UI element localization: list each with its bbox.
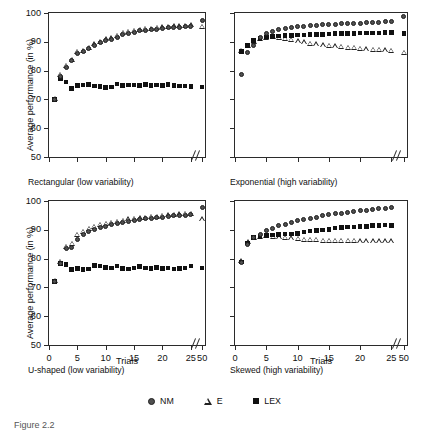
data-point-e <box>401 50 407 55</box>
data-point-nm <box>58 74 63 79</box>
data-point-nm <box>177 25 182 30</box>
data-point-nm <box>188 24 193 29</box>
panel-exponential: Exponential (high variability) <box>222 8 412 193</box>
data-point-nm <box>326 212 331 217</box>
data-point-nm <box>86 46 91 51</box>
y-axis-tick-label: 60 <box>31 310 41 323</box>
data-point-e <box>357 238 363 243</box>
data-point-e <box>345 238 351 243</box>
data-point-lex <box>189 264 194 269</box>
y-axis-tick: 80 <box>44 259 49 260</box>
data-point-lex <box>64 262 69 267</box>
data-point-e <box>388 48 394 53</box>
data-point-nm <box>314 215 319 220</box>
data-point-nm <box>326 22 331 27</box>
data-point-lex <box>333 31 338 36</box>
data-point-lex <box>137 83 142 88</box>
data-point-lex <box>154 83 159 88</box>
data-point-lex <box>109 85 114 90</box>
data-point-nm <box>389 205 394 210</box>
filled-square-icon <box>253 398 260 405</box>
data-point-e <box>338 44 344 49</box>
data-point-e <box>301 39 307 44</box>
x-axis-tick: 5 <box>266 345 267 350</box>
data-point-lex <box>264 233 269 238</box>
data-point-e <box>326 43 332 48</box>
figure-root: Average performance (in %) 5060708090100… <box>0 0 429 432</box>
data-point-lex <box>75 266 80 271</box>
data-point-e <box>199 216 205 221</box>
data-point-lex <box>308 32 313 37</box>
x-axis-tick: 20 <box>162 345 163 350</box>
data-point-nm <box>339 211 344 216</box>
data-point-nm <box>115 35 120 40</box>
data-point-lex <box>132 266 137 271</box>
data-point-nm <box>258 35 263 40</box>
y-axis-tick-label: 90 <box>31 35 41 48</box>
data-point-lex <box>402 31 407 36</box>
data-point-lex <box>352 225 357 230</box>
panel-skewed: 051015202550 Skewed (high variability) T… <box>222 196 412 381</box>
data-point-lex <box>69 86 74 91</box>
data-point-nm <box>320 213 325 218</box>
data-point-e <box>332 43 338 48</box>
data-point-lex <box>109 266 114 271</box>
open-triangle-icon <box>204 398 212 405</box>
x-axis-tick <box>134 157 135 162</box>
data-point-nm <box>289 25 294 30</box>
data-point-lex <box>283 33 288 38</box>
data-point-lex <box>143 266 148 271</box>
data-point-nm <box>308 216 313 221</box>
data-point-nm <box>75 237 80 242</box>
y-axis-tick <box>230 201 235 202</box>
data-point-nm <box>154 27 159 32</box>
y-axis-tick-label: 50 <box>31 339 41 352</box>
x-axis-tick <box>329 157 330 162</box>
data-point-lex <box>103 85 108 90</box>
data-point-e <box>351 238 357 243</box>
x-axis-tick <box>266 157 267 162</box>
data-point-e <box>326 238 332 243</box>
data-point-nm <box>383 206 388 211</box>
x-axis-break-icon <box>394 150 403 161</box>
data-point-nm <box>364 208 369 213</box>
data-point-nm <box>239 260 244 265</box>
data-point-lex <box>295 33 300 38</box>
data-point-nm <box>283 222 288 227</box>
data-point-lex <box>81 83 86 88</box>
data-point-e <box>295 38 301 43</box>
x-axis-tick <box>298 157 299 162</box>
data-point-lex <box>177 266 182 271</box>
data-point-nm <box>149 27 154 32</box>
data-point-lex <box>177 84 182 89</box>
data-point-nm <box>143 28 148 33</box>
y-axis-tick: 100 <box>44 201 49 202</box>
data-point-e <box>313 237 319 242</box>
data-point-e <box>288 235 294 240</box>
plot-area: 5060708090100051015202550 <box>48 200 206 346</box>
x-axis-tick <box>106 157 107 162</box>
x-axis-title: Trials <box>48 356 206 366</box>
data-point-nm <box>183 213 188 218</box>
y-axis-tick-label: 80 <box>31 64 41 77</box>
panel-rectangular: Average performance (in %) 5060708090100… <box>20 8 210 193</box>
data-point-e <box>307 237 313 242</box>
data-point-lex <box>295 231 300 236</box>
data-point-lex <box>143 82 148 87</box>
data-point-lex <box>289 232 294 237</box>
plot-area <box>234 12 408 158</box>
x-axis-tick: 10 <box>106 345 107 350</box>
data-point-lex <box>320 32 325 37</box>
panel-title: U-shaped (low variability) <box>28 365 124 375</box>
data-point-nm <box>64 65 69 70</box>
x-axis-tick <box>202 157 203 162</box>
data-point-lex <box>149 83 154 88</box>
data-point-lex <box>75 83 80 88</box>
data-point-nm <box>103 224 108 229</box>
data-point-e <box>307 41 313 46</box>
data-point-nm <box>351 21 356 26</box>
data-point-lex <box>86 82 91 87</box>
y-axis-tick-label: 70 <box>31 93 41 106</box>
data-point-lex <box>358 31 363 36</box>
data-point-lex <box>352 31 357 36</box>
